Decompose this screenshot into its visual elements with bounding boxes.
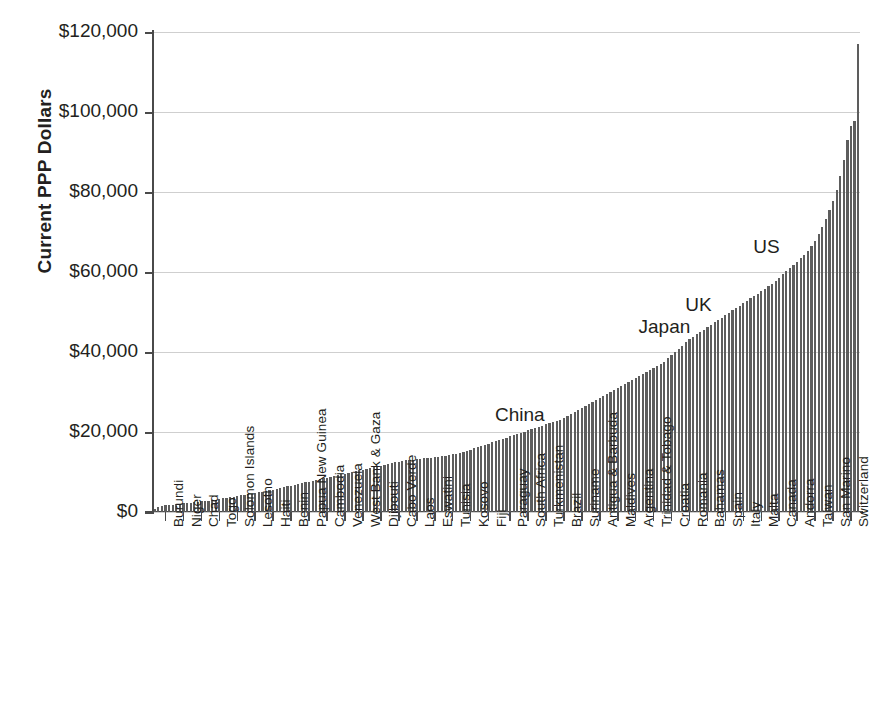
x-tick-mark (617, 512, 619, 521)
bar (853, 121, 855, 512)
bar (491, 442, 493, 512)
x-tick-label: Papua New Guinea (314, 408, 329, 527)
x-tick-label: Antigua & Barbuda (605, 412, 620, 527)
y-tick-mark (145, 512, 154, 514)
x-tick-mark (671, 512, 673, 521)
x-tick-label: Spain (730, 492, 745, 527)
y-tick-label: $100,000 (0, 100, 138, 122)
y-tick-mark (145, 112, 154, 114)
x-tick-mark (326, 512, 328, 521)
bar (800, 258, 802, 512)
x-tick-mark (380, 512, 382, 521)
bar (505, 438, 507, 512)
x-tick-mark (452, 512, 454, 521)
annotation-us: US (753, 236, 779, 258)
bar (803, 255, 805, 512)
x-tick-mark (272, 512, 274, 521)
x-tick-mark (725, 512, 727, 521)
bar (473, 448, 475, 512)
annotation-uk: UK (685, 294, 711, 316)
x-tick-mark (201, 512, 203, 521)
bar (825, 219, 827, 512)
x-tick-mark (219, 512, 221, 521)
x-tick-label: Malta (766, 493, 781, 527)
bar (739, 306, 741, 512)
bar (778, 278, 780, 512)
bar (760, 291, 762, 512)
x-tick-mark (832, 512, 834, 521)
bar (728, 313, 730, 512)
x-tick-mark (581, 512, 583, 521)
bar (186, 503, 188, 512)
bar (502, 439, 504, 512)
x-tick-mark (344, 512, 346, 521)
x-tick-mark (689, 512, 691, 521)
x-tick-mark (743, 512, 745, 521)
x-tick-mark (635, 512, 637, 521)
x-tick-mark (778, 512, 780, 521)
x-tick-mark (398, 512, 400, 521)
x-tick-mark (290, 512, 292, 521)
x-tick-label: Fiji (494, 509, 509, 527)
bar (828, 210, 830, 512)
bar (810, 246, 812, 512)
bar (818, 234, 820, 512)
bar (767, 286, 769, 512)
y-tick-mark (145, 432, 154, 434)
x-tick-mark (416, 512, 418, 521)
bar (857, 44, 859, 512)
bar (168, 505, 170, 512)
x-tick-mark (308, 512, 310, 521)
x-tick-mark (488, 512, 490, 521)
x-tick-mark (237, 512, 239, 521)
bar (775, 281, 777, 512)
x-tick-mark (707, 512, 709, 521)
annotation-china: China (495, 404, 545, 426)
x-tick-label: Switzerland (856, 456, 871, 527)
x-tick-mark (509, 512, 511, 521)
y-tick-mark (145, 32, 154, 34)
bar (692, 337, 694, 512)
x-tick-mark (761, 512, 763, 521)
bar (807, 251, 809, 512)
bar (792, 265, 794, 512)
bar (782, 274, 784, 512)
bar (814, 241, 816, 512)
x-tick-mark (362, 512, 364, 521)
x-tick-mark (470, 512, 472, 521)
x-tick-mark (796, 512, 798, 521)
bar (832, 201, 834, 512)
x-tick-mark (599, 512, 601, 521)
bar (498, 440, 500, 512)
x-tick-mark (653, 512, 655, 521)
x-tick-label: West Bank & Gaza (368, 412, 383, 527)
x-tick-label: Trinidad & Tobago (659, 416, 674, 527)
bar (746, 301, 748, 512)
bar (164, 505, 166, 512)
bar (753, 296, 755, 512)
bar (764, 289, 766, 512)
y-tick-label: $60,000 (0, 260, 138, 282)
bar (509, 436, 511, 512)
bar (735, 308, 737, 512)
bar (157, 507, 159, 512)
y-tick-label: $20,000 (0, 420, 138, 442)
bar (638, 376, 640, 512)
y-tick-label: $0 (0, 500, 138, 522)
bar (749, 298, 751, 512)
x-tick-mark (183, 512, 185, 521)
bar-series (153, 32, 860, 512)
bar (789, 268, 791, 512)
x-tick-mark (814, 512, 816, 521)
bar (161, 506, 163, 512)
x-tick-label: Benin (296, 492, 311, 527)
bar (674, 352, 676, 512)
x-tick-mark (165, 512, 167, 521)
y-tick-mark (145, 272, 154, 274)
bar (495, 441, 497, 512)
x-tick-mark (563, 512, 565, 521)
x-tick-label: Chad (206, 494, 221, 527)
y-tick-mark (145, 352, 154, 354)
bar (757, 294, 759, 512)
